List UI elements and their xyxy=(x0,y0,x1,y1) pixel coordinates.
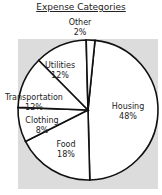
slice-label-utilities: Utilities12% xyxy=(45,61,75,81)
slice-label-clothing: Clothing8% xyxy=(25,116,58,136)
slice-label-transportation: Transportation12% xyxy=(5,93,63,113)
slice-label-other: Other2% xyxy=(69,18,92,38)
slice-label-food: Food18% xyxy=(56,140,75,160)
slice-label-housing: Housing48% xyxy=(112,102,145,122)
